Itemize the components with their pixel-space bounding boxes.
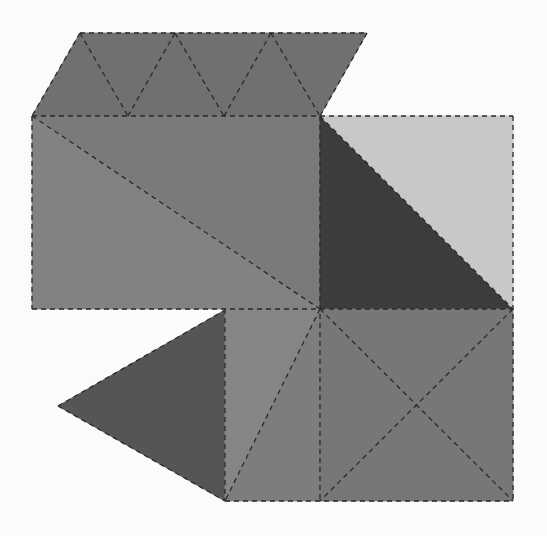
face-left-triangle	[58, 310, 225, 501]
net-faces	[32, 33, 513, 501]
polyhedron-net-diagram	[0, 0, 547, 536]
